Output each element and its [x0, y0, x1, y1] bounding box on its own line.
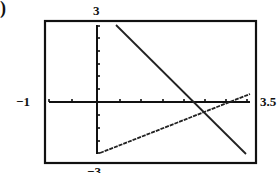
plot-area: [0, 0, 278, 173]
decreasing-line: [116, 25, 246, 154]
window-frame: [45, 21, 256, 163]
